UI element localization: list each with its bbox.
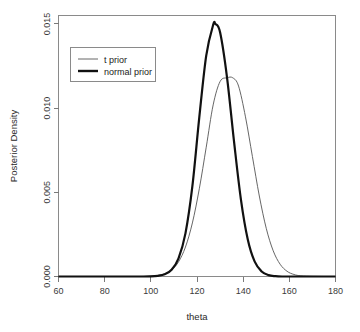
x-tick-label: 80 [100,286,110,296]
posterior-density-plot: 6080100120140160180 0.0000.0050.0100.015… [0,0,360,332]
x-tick-label: 120 [189,286,204,296]
y-axis-title: Posterior Density [8,110,19,183]
y-tick-label: 0.015 [42,13,52,36]
legend: t prior normal prior [71,48,156,82]
x-axis-title: theta [186,311,208,322]
legend-label-normal-prior: normal prior [104,67,152,77]
x-tick-label: 180 [328,286,343,296]
y-tick-label: 0.010 [42,97,52,120]
chart-background [0,0,360,332]
x-tick-label: 160 [282,286,297,296]
x-tick-label: 100 [143,286,158,296]
y-tick-label: 0.005 [42,181,52,204]
x-tick-label: 60 [53,286,63,296]
y-tick-label: 0.000 [42,265,52,288]
x-tick-label: 140 [236,286,251,296]
chart-canvas: 6080100120140160180 0.0000.0050.0100.015… [0,0,360,332]
legend-label-t-prior: t prior [104,55,127,65]
